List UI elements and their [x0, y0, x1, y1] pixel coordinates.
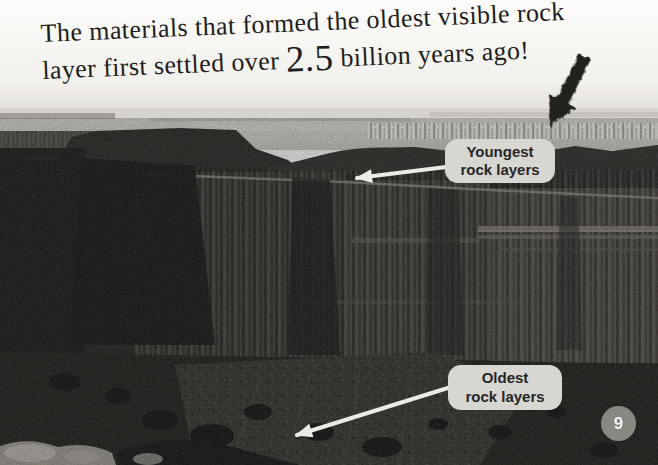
label-oldest-rock-layers: Oldest rock layers [448, 365, 562, 410]
label-oldest-line-1: Oldest [482, 369, 529, 388]
caption-line-2-prefix: layer first settled over [42, 46, 287, 85]
caption-line-2-suffix: billion years ago! [333, 36, 530, 73]
label-oldest-line-2: rock layers [465, 388, 544, 407]
photo-grain-light [0, 118, 658, 465]
caption-number: 2.5 [285, 37, 334, 80]
label-youngest-line-2: rock layers [460, 161, 539, 180]
page-number: 9 [614, 414, 623, 434]
book-page: The materials that formed the oldest vis… [0, 0, 658, 465]
label-youngest-rock-layers: Youngest rock layers [445, 139, 555, 183]
page-number-badge: 9 [601, 406, 636, 441]
label-youngest-line-1: Youngest [466, 143, 533, 162]
